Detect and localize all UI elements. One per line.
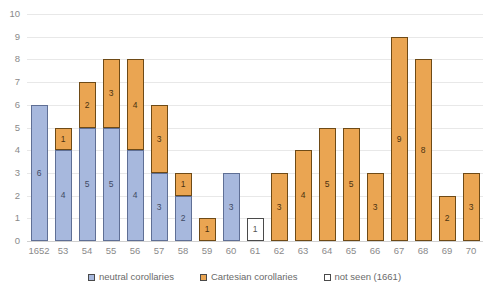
x-tick-label: 60 [219,243,243,259]
bar-stack[interactable]: 44 [127,14,144,241]
bar-segment[interactable]: 5 [319,128,336,242]
bar-segment-value: 1 [56,135,71,144]
bar-segment[interactable]: 3 [223,173,240,241]
bar-segment[interactable]: 4 [127,150,144,241]
bar-segment-value: 2 [80,101,95,110]
bar-slot[interactable]: 25 [75,14,99,241]
bar-slot[interactable]: 5 [339,14,363,241]
x-tick-label: 67 [387,243,411,259]
bar-slot[interactable]: 12 [171,14,195,241]
bar-segment[interactable]: 2 [79,82,96,127]
x-tick-label: 1652 [27,243,51,259]
bar-slot[interactable]: 3 [459,14,483,241]
y-tick-label: 10 [9,9,20,19]
bar-stack[interactable]: 3 [367,14,384,241]
legend-item[interactable]: Cartesian corollaries [200,272,298,282]
bar-segment-value: 1 [248,225,263,234]
bar-slot[interactable]: 8 [411,14,435,241]
bar-segment[interactable]: 5 [103,128,120,242]
bar-stack[interactable]: 5 [319,14,336,241]
x-tick-label: 68 [411,243,435,259]
bar-stack[interactable]: 3 [223,14,240,241]
bar-segment[interactable]: 3 [271,173,288,241]
bar-segment[interactable]: 6 [31,105,48,241]
bar-stack[interactable]: 1 [199,14,216,241]
legend-swatch-icon [88,274,95,281]
bar-segment-value: 5 [344,180,359,189]
bar-slot[interactable]: 5 [315,14,339,241]
y-tick-label: 8 [15,55,20,65]
bar-stack[interactable]: 4 [295,14,312,241]
legend-label: neutral corollaries [99,272,174,282]
bar-segment[interactable]: 1 [55,128,72,151]
bar-segment-value: 5 [80,180,95,189]
bar-segment-value: 4 [128,191,143,200]
bar-segment[interactable]: 3 [463,173,480,241]
bar-stack[interactable]: 9 [391,14,408,241]
bar-segment-value: 9 [392,135,407,144]
bar-segment[interactable]: 5 [79,128,96,242]
bar-segment[interactable]: 1 [175,173,192,196]
bar-slot[interactable]: 33 [147,14,171,241]
bar-stack[interactable]: 8 [415,14,432,241]
bar-segment-value: 6 [32,169,47,178]
bar-slot[interactable]: 4 [291,14,315,241]
bar-segment[interactable]: 8 [415,59,432,241]
bar-segment[interactable]: 3 [151,105,168,173]
bar-slot[interactable]: 1 [243,14,267,241]
bar-segment[interactable]: 2 [175,196,192,241]
legend-swatch-icon [200,274,207,281]
bar-stack[interactable]: 35 [103,14,120,241]
bar-segment[interactable]: 1 [199,218,216,241]
stacked-bar-chart: 012345678910 6142535443312131345539823 1… [0,0,489,294]
bar-segment[interactable]: 1 [247,218,264,241]
bar-slot[interactable]: 1 [195,14,219,241]
bar-segment[interactable]: 2 [439,196,456,241]
bar-slot[interactable]: 3 [219,14,243,241]
y-tick-label: 5 [15,123,20,133]
chart-legend: neutral corollariesCartesian corollaries… [0,268,489,286]
bar-stack[interactable]: 3 [271,14,288,241]
bar-segment[interactable]: 5 [343,128,360,242]
bar-segment[interactable]: 4 [55,150,72,241]
bar-stack[interactable]: 33 [151,14,168,241]
bar-segment-value: 8 [416,146,431,155]
bar-stack[interactable]: 12 [175,14,192,241]
bar-segment[interactable]: 3 [367,173,384,241]
legend-item[interactable]: not seen (1661) [324,272,402,282]
bar-segment[interactable]: 9 [391,37,408,241]
bar-slot[interactable]: 2 [435,14,459,241]
bar-stack[interactable]: 6 [31,14,48,241]
bar-segment[interactable]: 4 [295,150,312,241]
bar-stack[interactable]: 5 [343,14,360,241]
bar-segment[interactable]: 3 [151,173,168,241]
bar-stack[interactable]: 1 [247,14,264,241]
bar-stack[interactable]: 3 [463,14,480,241]
bar-stack[interactable]: 25 [79,14,96,241]
bar-segment[interactable]: 4 [127,59,144,150]
bar-segment[interactable]: 3 [103,59,120,127]
gridline [27,241,483,242]
bar-segment-value: 4 [56,191,71,200]
bar-group: 6142535443312131345539823 [27,14,483,241]
x-tick-label: 69 [435,243,459,259]
bar-slot[interactable]: 3 [267,14,291,241]
bar-segment-value: 5 [320,180,335,189]
bar-slot[interactable]: 14 [51,14,75,241]
bar-stack[interactable]: 2 [439,14,456,241]
bar-slot[interactable]: 6 [27,14,51,241]
bar-slot[interactable]: 35 [99,14,123,241]
bar-segment-value: 4 [128,101,143,110]
x-tick-label: 70 [459,243,483,259]
bar-slot[interactable]: 9 [387,14,411,241]
y-tick-label: 9 [15,32,20,42]
x-tick-label: 65 [339,243,363,259]
legend-item[interactable]: neutral corollaries [88,272,174,282]
bar-stack[interactable]: 14 [55,14,72,241]
x-tick-label: 59 [195,243,219,259]
bar-slot[interactable]: 3 [363,14,387,241]
x-tick-label: 56 [123,243,147,259]
x-tick-label: 58 [171,243,195,259]
bar-segment-value: 3 [464,203,479,212]
bar-slot[interactable]: 44 [123,14,147,241]
